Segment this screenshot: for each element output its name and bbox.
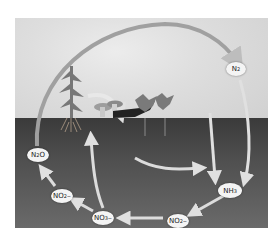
node-no2-left: NO2− <box>51 189 73 203</box>
small-plants <box>135 93 174 136</box>
arrow-no3-to-no2-left <box>75 201 93 211</box>
arrow-plant-to-nh3 <box>210 113 215 178</box>
arrow-nh3-to-no2 <box>193 195 225 213</box>
node-nh3: NH3 <box>218 183 242 198</box>
node-n2o: N2O <box>27 148 49 162</box>
arrow-n2-to-nh3 <box>240 80 249 180</box>
arrow-no2-to-n2o <box>43 170 55 186</box>
corn-plant <box>59 66 84 132</box>
node-no3: NO3− <box>92 211 114 225</box>
nitrogen-cycle-diagram: N2 N2O NO2− NO3− NO2− NH3 <box>15 18 268 228</box>
node-no2-right: NO2− <box>167 214 189 228</box>
arrow-decomposition-to-nh3 <box>135 158 200 169</box>
node-n2: N2 <box>226 62 246 76</box>
arrow-no3-to-plant <box>91 138 103 208</box>
